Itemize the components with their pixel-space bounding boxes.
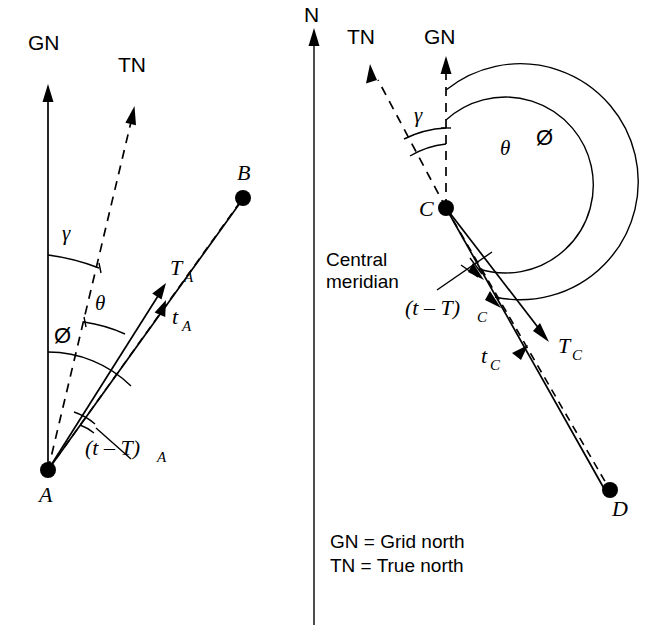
right-target-label-d: D (611, 496, 628, 521)
right-grid-north-arrowhead-icon (441, 56, 452, 74)
left-theta-arc-tick (84, 317, 86, 327)
right-true-bearing-line (446, 208, 540, 330)
right-true-north-arrowhead-icon (366, 64, 377, 84)
left-grid-line-to-b (48, 203, 240, 470)
left-correction-arc-inner (80, 425, 94, 433)
left-phi-label: Ø (54, 323, 71, 348)
left-true-bearing-arrowhead-icon (152, 283, 166, 300)
central-meridian-label-line2: meridian (326, 271, 399, 292)
left-true-bearing-label: T (170, 255, 184, 280)
left-correction-sublabel: A (156, 449, 167, 465)
left-station-point-a (40, 462, 56, 478)
left-gamma-label: γ (62, 221, 71, 245)
right-grid-bearing-sublabel: C (490, 357, 501, 373)
right-gamma-label: γ (414, 103, 423, 127)
figure-canvas: N Central meridian GN TN T A t A A B (0, 0, 658, 635)
left-diagram-group: GN TN T A t A A B γ θ Ø (28, 31, 251, 507)
right-phi-label: Ø (536, 125, 553, 150)
left-theta-label: θ (95, 291, 105, 315)
right-true-bearing-sublabel: C (572, 347, 583, 363)
right-correction-label-group: (t – T) C (405, 295, 488, 325)
left-true-north-arrowhead-icon (125, 106, 136, 125)
left-gamma-arc-tick (99, 263, 101, 273)
north-label: N (304, 3, 319, 26)
right-theta-label: θ (500, 136, 510, 160)
right-correction-label-text: (t – T) (405, 295, 460, 320)
legend-line-grid-north: GN = Grid north (330, 531, 465, 552)
right-station-label-c: C (419, 196, 434, 221)
legend-line-true-north: TN = True north (330, 555, 464, 576)
left-target-point-b (235, 190, 251, 206)
right-station-point-c (438, 200, 454, 216)
left-grid-bearing-arrowhead-icon (155, 300, 166, 317)
left-correction-label-group: (t – T) A (85, 435, 167, 465)
right-grid-north-label: GN (424, 25, 456, 48)
left-grid-north-label: GN (28, 31, 60, 54)
left-true-bearing-sublabel: A (183, 269, 194, 285)
left-station-label-a: A (37, 482, 53, 507)
left-true-north-label: TN (118, 53, 146, 76)
right-gamma-arc (404, 128, 446, 139)
right-true-north-line (378, 80, 446, 208)
survey-convergence-diagram: N Central meridian GN TN T A t A A B (0, 0, 658, 635)
left-true-north-line (48, 122, 131, 470)
left-correction-label-text: (t – T) (85, 435, 140, 460)
right-correction-sublabel: C (477, 309, 488, 325)
right-true-bearing-label: T (558, 333, 572, 358)
right-grid-bearing-arrowhead-icon (512, 345, 528, 360)
right-true-north-label: TN (347, 25, 375, 48)
north-arrowhead-icon (309, 28, 320, 46)
left-gamma-arc (48, 255, 99, 268)
right-grid-bearing-label: t (481, 343, 488, 368)
left-grid-bearing-sublabel: A (181, 318, 192, 334)
central-meridian-label-line1: Central (326, 249, 387, 270)
right-true-bearing-arrowhead-icon (533, 323, 549, 342)
left-grid-bearing-label: t (172, 304, 179, 329)
left-target-label-b: B (237, 160, 250, 185)
legend-group: GN = Grid north TN = True north (330, 531, 465, 576)
left-grid-north-arrowhead-icon (43, 84, 54, 102)
left-theta-arc (84, 322, 125, 334)
